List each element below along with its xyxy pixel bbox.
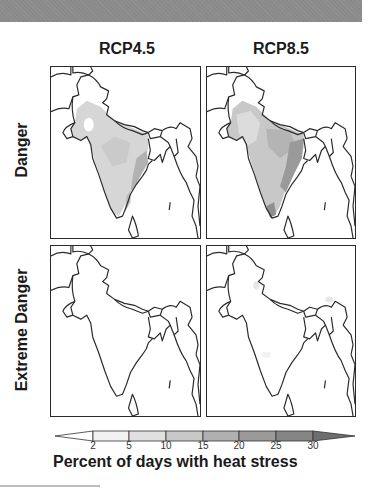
colorbar-label: Percent of days with heat stress: [53, 453, 298, 471]
map-danger-rcp45: [51, 67, 200, 238]
map-extreme-danger-rcp45: [51, 246, 200, 416]
map-panel-danger-rcp85: [206, 66, 356, 239]
row-label-extreme-danger: Extreme Danger: [13, 255, 31, 405]
row-label-danger: Danger: [13, 100, 31, 200]
colorbar-tick-30: 30: [307, 440, 318, 451]
colorbar-tick-15: 15: [197, 440, 208, 451]
colorbar-tick-10: 10: [160, 440, 171, 451]
colorbar-tick-2: 2: [90, 440, 96, 451]
map-danger-rcp85: [207, 67, 355, 238]
colorbar-tick-25: 25: [270, 440, 281, 451]
colorbar-tick-5: 5: [126, 440, 132, 451]
map-extreme-danger-rcp85: [207, 246, 355, 416]
map-panel-extreme-danger-rcp45: [50, 245, 201, 417]
divider: [0, 485, 100, 487]
column-title-rcp45: RCP4.5: [52, 40, 202, 58]
column-title-rcp85: RCP8.5: [206, 40, 356, 58]
colorbar-tick-20: 20: [233, 440, 244, 451]
header-banner: [0, 0, 362, 22]
colorbar: [55, 428, 355, 440]
map-panel-extreme-danger-rcp85: [206, 245, 356, 417]
map-panel-danger-rcp45: [50, 66, 201, 239]
